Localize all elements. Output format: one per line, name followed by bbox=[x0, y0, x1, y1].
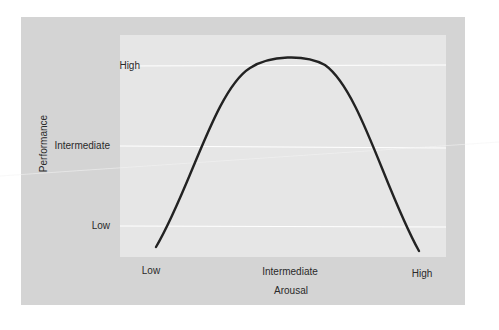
gridline-intermediate bbox=[120, 146, 446, 148]
y-tick-high: High bbox=[50, 60, 140, 71]
x-tick-high: High bbox=[377, 268, 467, 279]
chart-graphics bbox=[0, 0, 499, 330]
inverted-u-curve bbox=[156, 57, 419, 251]
x-tick-intermediate: Intermediate bbox=[245, 266, 335, 277]
y-tick-low: Low bbox=[20, 220, 110, 231]
y-tick-intermediate: Intermediate bbox=[20, 140, 110, 151]
y-axis-label: Performance bbox=[38, 89, 49, 199]
x-tick-low: Low bbox=[106, 265, 196, 276]
gridline-low bbox=[120, 226, 446, 227]
x-axis-label: Arousal bbox=[241, 285, 341, 296]
gridline-high bbox=[120, 65, 446, 66]
